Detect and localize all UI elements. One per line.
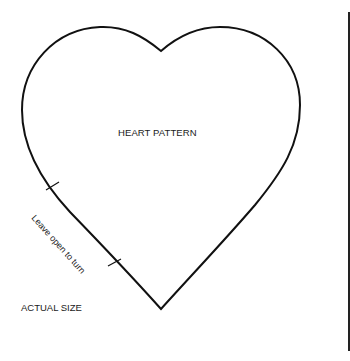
pattern-title: HEART PATTERN xyxy=(118,127,197,138)
page-edge-divider xyxy=(348,12,350,351)
scale-note: ACTUAL SIZE xyxy=(21,302,82,313)
